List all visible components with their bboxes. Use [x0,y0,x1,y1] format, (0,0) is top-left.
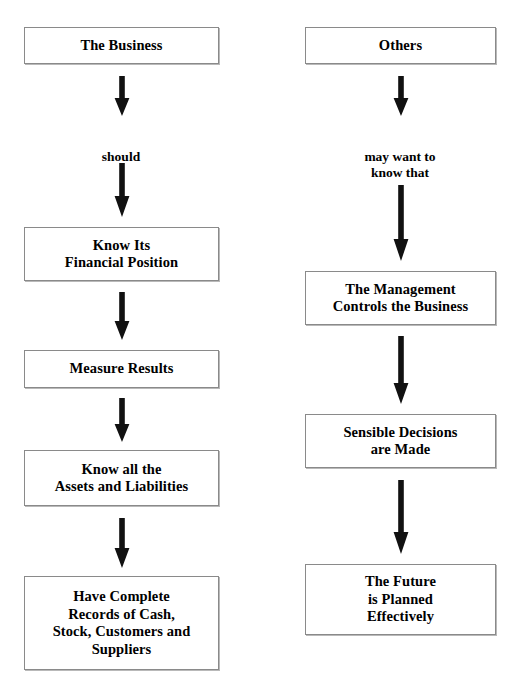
node-management-controls-business[interactable]: The Management Controls the Business [305,271,496,325]
node-sensible-decisions-are-made[interactable]: Sensible Decisions are Made [305,414,496,468]
arrow-may-want-to-management [393,185,409,261]
node-others[interactable]: Others [305,27,496,64]
edge-label-may-want-to-know-that: may want to know that [350,133,450,181]
arrow-assets-liabilities-to-records [114,518,130,568]
arrow-decisions-to-future [393,480,409,554]
node-future-is-planned-effectively[interactable]: The Future is Planned Effectively [305,564,496,635]
others-column: Others may want to know that The Managem… [260,0,515,687]
node-have-complete-records[interactable]: Have Complete Records of Cash, Stock, Cu… [24,576,219,670]
node-label: Others [373,37,428,55]
arrow-should-to-financial-position [114,163,130,217]
node-know-all-assets-liabilities[interactable]: Know all the Assets and Liabilities [24,450,219,506]
arrow-others-to-may-want [393,76,409,116]
arrow-measure-results-to-assets-liabilities [114,398,130,442]
node-measure-results[interactable]: Measure Results [24,350,219,388]
edge-label-text: may want to know that [364,149,435,180]
node-label: Know all the Assets and Liabilities [49,461,195,496]
edge-label-text: should [102,149,140,164]
arrow-management-to-decisions [393,336,409,404]
node-label: The Business [74,37,168,55]
node-know-its-financial-position[interactable]: Know Its Financial Position [24,227,219,281]
arrow-business-to-should [114,76,130,116]
edge-label-should: should [71,133,171,165]
arrow-financial-position-to-measure-results [114,292,130,340]
business-column: The Business should Know Its Financial P… [0,0,260,687]
node-label: Have Complete Records of Cash, Stock, Cu… [47,588,197,658]
node-label: Know Its Financial Position [59,237,184,272]
node-the-business[interactable]: The Business [24,27,219,64]
node-label: Measure Results [64,360,180,378]
node-label: Sensible Decisions are Made [337,424,463,459]
node-label: The Future is Planned Effectively [359,573,442,626]
node-label: The Management Controls the Business [327,281,475,316]
flowchart-canvas: The Business should Know Its Financial P… [0,0,515,687]
